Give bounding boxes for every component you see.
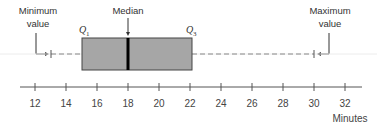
svg-text:30: 30 — [308, 98, 320, 109]
x-axis-tick-labels: 12 14 16 18 20 22 24 26 28 30 32 — [29, 98, 351, 109]
max-pointer-arrow — [317, 33, 329, 56]
svg-text:1: 1 — [86, 30, 90, 38]
svg-text:3: 3 — [193, 30, 197, 38]
svg-text:28: 28 — [277, 98, 289, 109]
svg-text:32: 32 — [339, 98, 351, 109]
svg-text:26: 26 — [246, 98, 258, 109]
min-pointer-arrow — [36, 33, 49, 56]
svg-text:24: 24 — [215, 98, 227, 109]
svg-text:18: 18 — [122, 98, 134, 109]
svg-text:20: 20 — [153, 98, 165, 109]
x-axis-title: Minutes — [332, 113, 367, 124]
min-label-line1: Minimum — [19, 5, 58, 16]
svg-text:14: 14 — [60, 98, 72, 109]
q1-label: Q 1 — [79, 24, 90, 38]
q3-label: Q 3 — [186, 24, 197, 38]
median-pointer-arrow — [126, 18, 130, 36]
max-label-line1: Maximum — [309, 5, 350, 16]
median-label: Median — [112, 5, 143, 16]
iqr-box — [82, 38, 192, 70]
svg-text:16: 16 — [91, 98, 103, 109]
max-label-line2: value — [319, 18, 342, 29]
min-label-line2: value — [27, 18, 50, 29]
svg-text:22: 22 — [184, 98, 196, 109]
svg-text:12: 12 — [29, 98, 41, 109]
box-plot-chart: Minimum value Median Maximum value Q 1 Q… — [0, 0, 377, 128]
